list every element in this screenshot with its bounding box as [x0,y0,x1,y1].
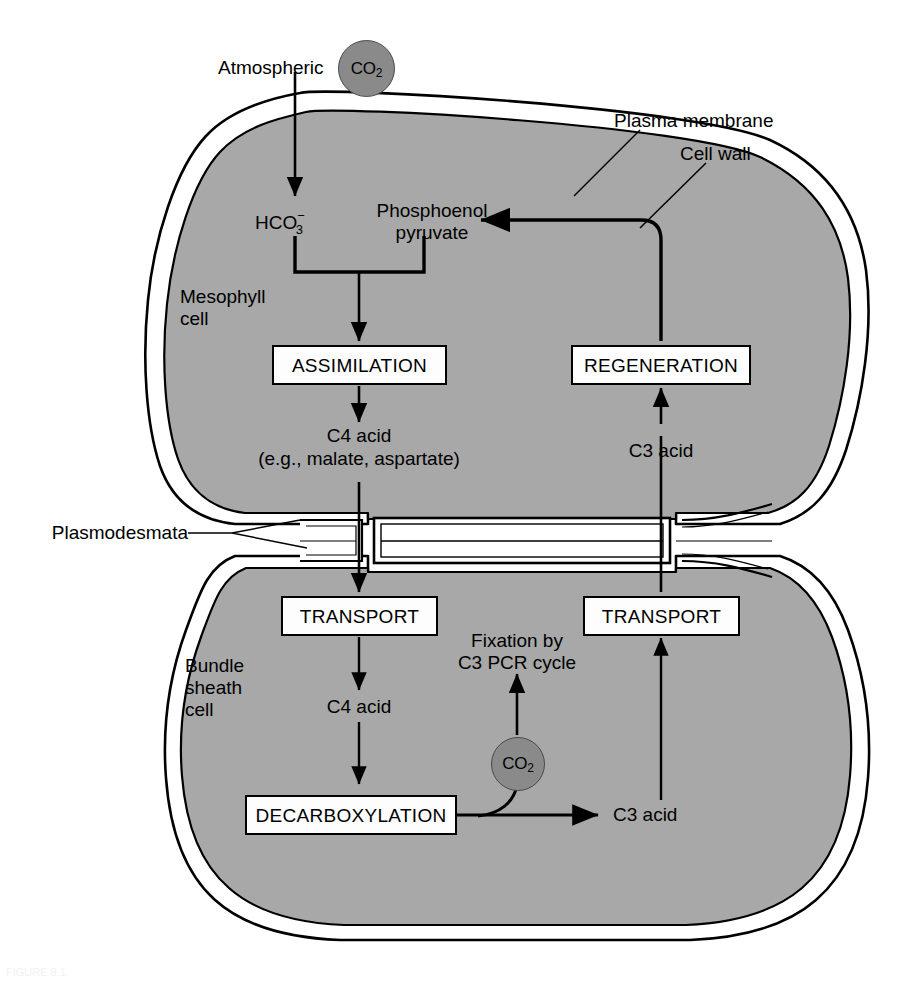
transport-left-box[interactable]: TRANSPORT [281,596,438,636]
regeneration-box[interactable]: REGENERATION [571,345,751,385]
assimilation-box[interactable]: ASSIMILATION [272,345,447,385]
co2-released-subscript: 2 [527,761,533,775]
bicarbonate-label: HCO−3 [255,207,312,236]
figure-caption: FIGURE 8.1 [6,966,66,978]
transport-right-label: TRANSPORT [602,607,722,626]
regeneration-label: REGENERATION [584,356,738,375]
assimilation-label: ASSIMILATION [292,356,427,375]
c4-acid-bundle-label: C4 acid [279,696,439,718]
bicarbonate-superscript: − [297,208,305,223]
decarboxylation-box[interactable]: DECARBOXYLATION [245,795,457,835]
figure-canvas: Atmospheric CO2 Plasma membrane Cell wal… [0,0,918,984]
bundle-sheath-cell-label: Bundle sheath cell [185,655,244,721]
bicarbonate-main: HCO [255,212,297,233]
co2-atmospheric-subscript: 2 [376,66,382,80]
fixation-pcr-label: Fixation by C3 PCR cycle [427,630,607,674]
c4-acid-mesophyll-label: C4 acid [279,425,439,447]
plasmodesmata-label: Plasmodesmata [20,522,188,544]
cell-wall-label: Cell wall [680,143,751,165]
transport-left-label: TRANSPORT [300,607,420,626]
pep-label: Phosphoenol pyruvate [352,200,512,244]
bicarbonate-subscript: 3 [296,222,303,237]
plasma-membrane-label: Plasma membrane [614,110,773,132]
co2-atmospheric-text: CO [351,59,376,79]
cell-diagram [0,0,918,984]
mesophyll-cell-label: Mesophyll cell [180,286,266,330]
c3-acid-mesophyll-label: C3 acid [581,440,741,462]
decarboxylation-label: DECARBOXYLATION [255,806,446,825]
co2-atmospheric-bubble: CO2 [338,40,395,97]
co2-released-text: CO [502,754,527,774]
c4-acid-examples-label: (e.g., malate, aspartate) [219,448,499,470]
atmospheric-label: Atmospheric [218,57,324,79]
c3-acid-bundle-label: C3 acid [613,804,677,826]
co2-released-bubble: CO2 [491,737,545,791]
